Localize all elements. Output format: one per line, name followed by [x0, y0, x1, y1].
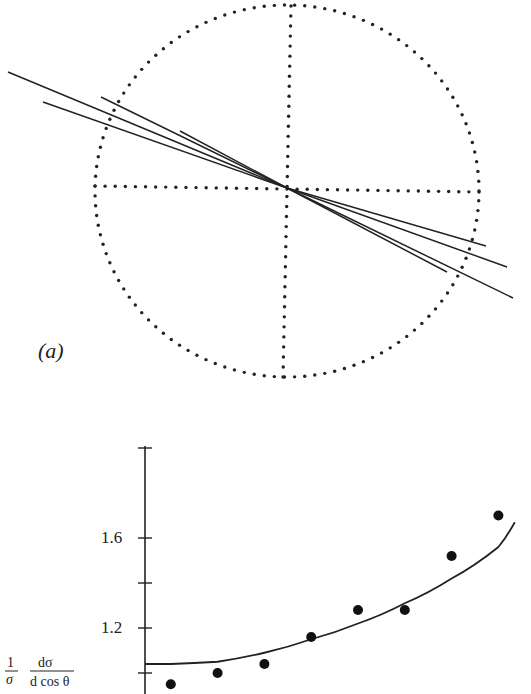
circle-dot — [362, 19, 365, 22]
crosshair-dot — [288, 64, 291, 67]
circle-dot — [162, 47, 165, 50]
circle-dot — [440, 299, 443, 302]
circle-dot — [101, 243, 104, 246]
circle-dot — [97, 223, 100, 226]
circle-dot — [117, 100, 120, 103]
crosshair-dot — [407, 189, 410, 192]
crosshair-dot — [282, 365, 285, 368]
circle-dot — [405, 44, 408, 47]
circle-dot — [476, 209, 479, 212]
circle-dot — [380, 351, 383, 354]
crosshair-dot — [417, 189, 420, 192]
circle-dot — [333, 9, 336, 12]
circle-dot — [303, 375, 306, 378]
crosshair-dot — [286, 175, 289, 178]
crosshair-dot — [289, 24, 292, 27]
circle-dot — [451, 96, 454, 99]
circle-dot — [186, 30, 189, 33]
circle-dot — [477, 179, 480, 182]
circle-dot — [451, 283, 454, 286]
circle-dot — [223, 365, 226, 368]
circle-dot — [427, 64, 430, 67]
crosshair-dot — [204, 186, 207, 189]
circle-dot — [97, 155, 100, 158]
circle-dot — [323, 7, 326, 10]
crosshair-dot — [93, 184, 96, 187]
circle-dot — [178, 343, 181, 346]
circle-dot — [473, 150, 476, 153]
crosshair-dot — [275, 187, 278, 190]
circle-dot — [128, 83, 131, 86]
circle-dot — [283, 3, 286, 6]
crosshair-dot — [235, 187, 238, 190]
y-tick-label-1-6: 1.6 — [101, 528, 122, 547]
crosshair-dot — [467, 190, 470, 193]
figure: (a) 1.6 1.2 1 σ dσ d cos θ — [0, 0, 531, 694]
circle-dot — [253, 373, 256, 376]
circle-dot — [343, 12, 346, 15]
circle-dot — [460, 113, 463, 116]
circle-dot — [95, 165, 98, 168]
circle-dot — [413, 328, 416, 331]
circle-dot — [475, 160, 478, 163]
circle-dot — [468, 247, 471, 250]
crosshair-dot — [287, 95, 290, 98]
circle-dot — [154, 54, 157, 57]
circle-dot — [112, 270, 115, 273]
crosshair-dot — [326, 188, 329, 191]
crosshair-dot — [215, 186, 218, 189]
dotted-circle — [93, 3, 480, 378]
circle-dot — [104, 252, 107, 255]
ylabel-dsigma: dσ — [38, 655, 53, 670]
crosshair-dot — [282, 345, 285, 348]
crosshair-dot — [457, 190, 460, 193]
circle-dot — [476, 170, 479, 173]
circle-dot — [413, 50, 416, 53]
circle-dot — [343, 367, 346, 370]
crosshair-dot — [103, 184, 106, 187]
circle-dot — [313, 373, 316, 376]
circle-dot — [293, 375, 296, 378]
circle-dot — [405, 335, 408, 338]
crosshair-dot — [281, 375, 284, 378]
circle-dot — [273, 4, 276, 7]
circle-dot — [147, 60, 150, 63]
circle-dot — [99, 146, 102, 149]
circle-dot — [186, 349, 189, 352]
crosshair-dot — [477, 190, 480, 193]
circle-dot — [477, 199, 480, 202]
circle-dot — [93, 194, 96, 197]
crosshair-dot — [114, 185, 117, 188]
data-point — [447, 551, 457, 561]
crosshair-dot — [283, 305, 286, 308]
circle-dot — [456, 274, 459, 277]
y-axis-label: 1 σ dσ d cos θ — [5, 655, 74, 689]
crosshair-dot — [386, 189, 389, 192]
ylabel-one: 1 — [7, 655, 14, 670]
crosshair-dot — [286, 165, 289, 168]
crosshair-dot — [285, 205, 288, 208]
crosshair-dot — [376, 189, 379, 192]
circle-dot — [94, 175, 97, 178]
crosshair-dot — [346, 188, 349, 191]
circle-dot — [434, 307, 437, 310]
circle-dot — [427, 315, 430, 318]
crosshair-dot — [283, 285, 286, 288]
crosshair-dot — [245, 187, 248, 190]
crosshair-dot — [336, 188, 339, 191]
circle-dot — [108, 118, 111, 121]
crosshair-dot — [287, 115, 290, 118]
circle-dot — [204, 358, 207, 361]
crosshair-dot — [289, 4, 292, 7]
circle-dot — [362, 360, 365, 363]
crosshair-dot — [282, 325, 285, 328]
crosshair-dot — [284, 265, 287, 268]
circle-dot — [352, 364, 355, 367]
circle-dot — [94, 204, 97, 207]
crosshair-dot — [289, 14, 292, 17]
crosshair-dot — [194, 186, 197, 189]
circle-dot — [313, 5, 316, 8]
circle-dot — [446, 87, 449, 90]
circle-dot — [371, 356, 374, 359]
crosshair-dot — [447, 190, 450, 193]
